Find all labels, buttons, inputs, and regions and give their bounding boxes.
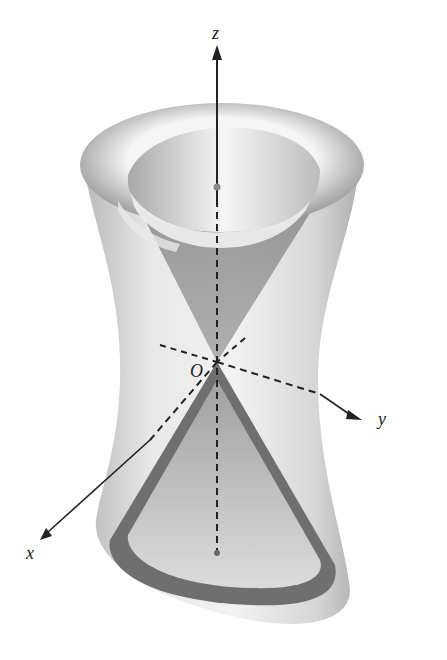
hyperboloid-diagram: [0, 0, 447, 660]
x-axis-label: x: [26, 544, 34, 562]
y-axis-arrow: [346, 410, 362, 420]
y-axis-label: y: [378, 410, 386, 428]
bottom-center-point: [214, 550, 220, 556]
top-center-point: [214, 184, 221, 191]
origin-label: O: [190, 362, 203, 380]
z-axis-label: z: [212, 24, 219, 42]
y-axis: [320, 394, 352, 416]
z-axis-arrow: [212, 45, 222, 60]
